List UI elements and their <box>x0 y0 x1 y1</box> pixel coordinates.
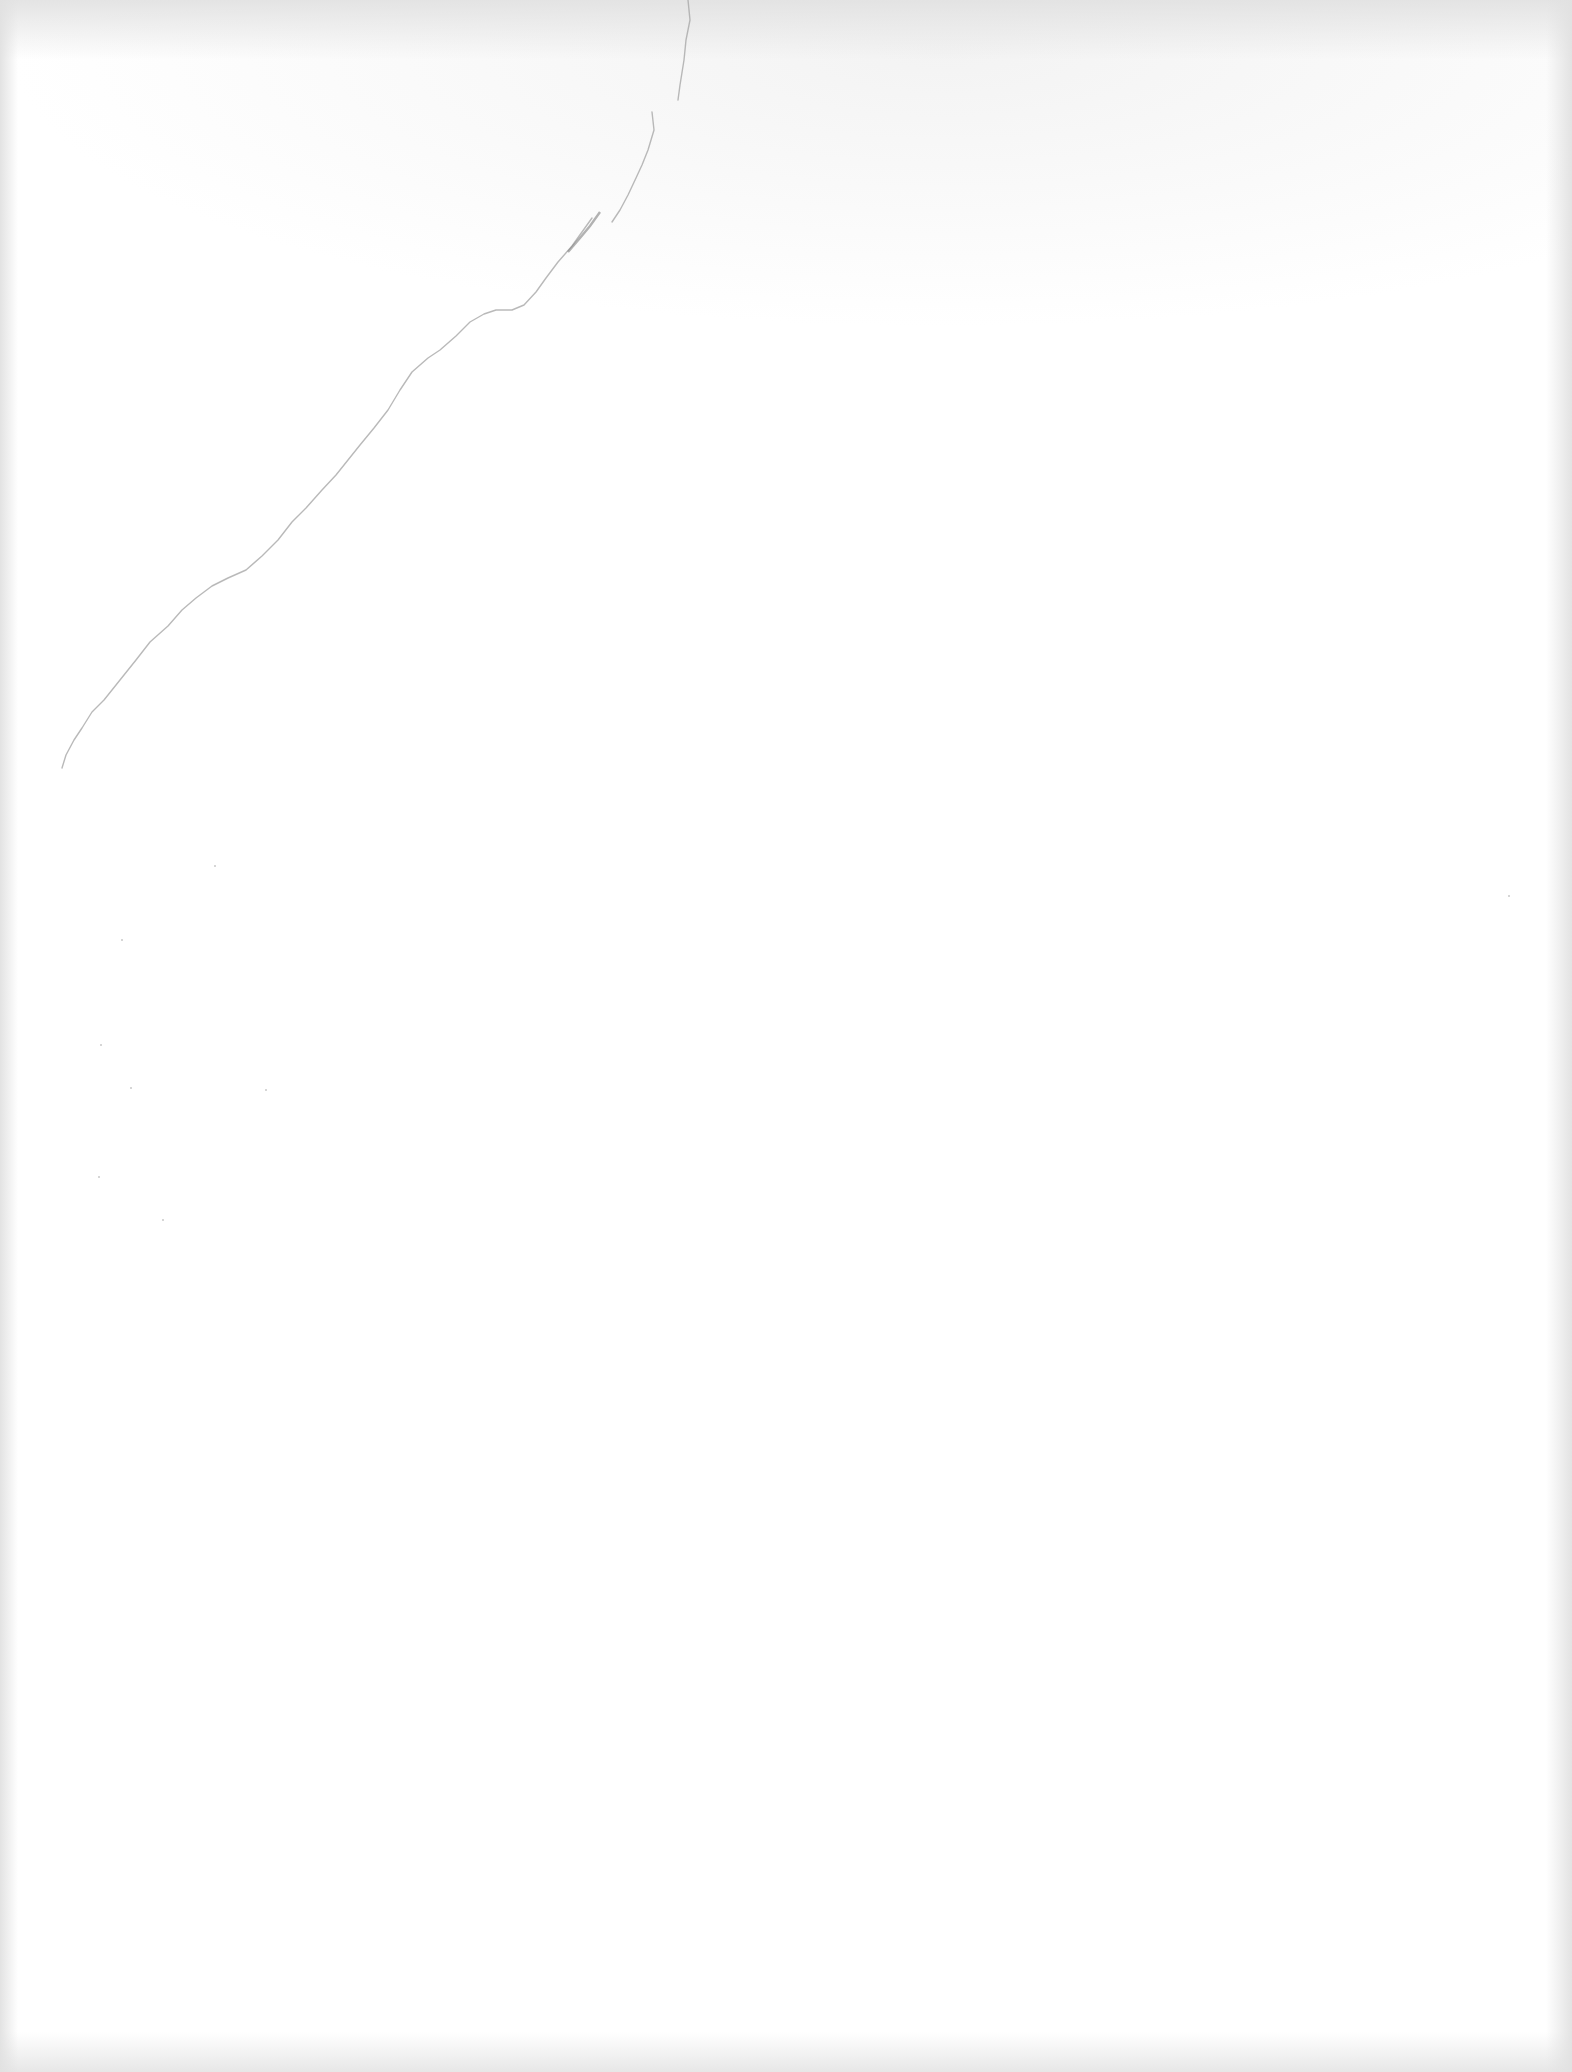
dust-speck <box>162 1219 164 1221</box>
scan-edge-left <box>0 0 18 2072</box>
blank-page <box>0 0 1572 2072</box>
scan-edge-top <box>0 0 1572 60</box>
scan-edge-bottom <box>0 2032 1572 2072</box>
dust-speck <box>121 939 123 941</box>
scan-edge-right <box>1546 0 1572 2072</box>
dust-speck <box>100 1044 102 1046</box>
dust-speck <box>265 1089 267 1091</box>
dust-speck <box>214 865 216 867</box>
dust-speck <box>130 1087 132 1089</box>
dust-speck <box>98 1176 100 1178</box>
dust-speck <box>1508 895 1510 897</box>
